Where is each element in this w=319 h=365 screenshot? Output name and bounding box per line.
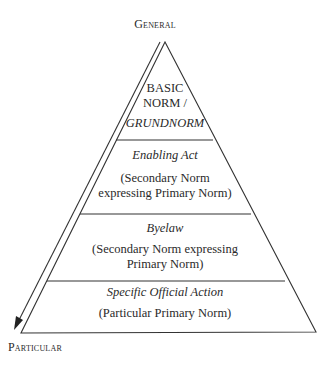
arrow-head-icon xyxy=(14,316,23,330)
tier-2-desc-line1: (Secondary Norm xyxy=(70,171,260,186)
bottom-label: Particular xyxy=(8,340,88,354)
tier-2-desc-line2: expressing Primary Norm) xyxy=(70,186,260,201)
tier-3-desc-line2: Primary Norm) xyxy=(60,257,270,272)
tier-3-desc-line1: (Secondary Norm expressing xyxy=(60,242,270,257)
tier-1-title-italic: GRUNDNORM xyxy=(115,116,215,131)
tier-4-title: Specific Official Action xyxy=(70,285,260,300)
tier-1-title-line2: NORM / xyxy=(120,96,210,111)
tier-4-desc-line1: (Particular Primary Norm) xyxy=(60,306,270,321)
tier-3-title: Byelaw xyxy=(90,221,240,236)
tier-1-title-line1: BASIC xyxy=(120,81,210,96)
top-label: General xyxy=(120,17,190,31)
tier-2-title: Enabling Act xyxy=(90,148,240,163)
